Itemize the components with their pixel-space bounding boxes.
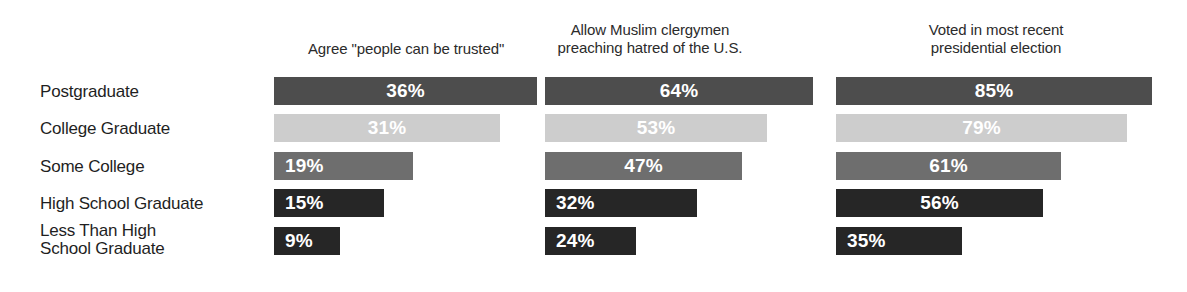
row-label-college-graduate: College Graduate <box>40 119 170 138</box>
bar-value: 85% <box>836 77 1152 105</box>
bar-value: 32% <box>545 189 697 217</box>
column-header-clergymen-line2: preaching hatred of the U.S. <box>520 39 780 57</box>
column-header-clergymen-line1: Allow Muslim clergymen <box>520 21 780 39</box>
bar-value: 64% <box>545 77 813 105</box>
bar-trust-some-college: 19% <box>274 152 413 180</box>
row-label-postgraduate: Postgraduate <box>40 82 139 101</box>
bar-value: 47% <box>545 152 742 180</box>
bar-voted-some-college: 61% <box>836 152 1061 180</box>
bar-clergymen-college-graduate: 53% <box>545 114 767 142</box>
column-header-clergymen: Allow Muslim clergymen preaching hatred … <box>520 21 780 57</box>
bar-voted-less-than-high-school: 35% <box>836 227 962 255</box>
bar-value: 36% <box>274 77 537 105</box>
column-header-voted-line2: presidential election <box>876 39 1116 57</box>
bar-value: 31% <box>274 114 500 142</box>
bar-value: 9% <box>274 227 340 255</box>
column-header-voted: Voted in most recent presidential electi… <box>876 21 1116 57</box>
row-label-some-college: Some College <box>40 157 144 176</box>
bar-value: 61% <box>836 152 1061 180</box>
column-header-trust-line1: Agree "people can be trusted" <box>274 40 538 58</box>
bar-value: 56% <box>836 189 1043 217</box>
bar-voted-college-graduate: 79% <box>836 114 1127 142</box>
bar-value: 15% <box>274 189 384 217</box>
row-label-high-school-graduate: High School Graduate <box>40 194 203 213</box>
row-label-less-than-high-school: Less Than High School Graduate <box>40 222 165 258</box>
bar-value: 19% <box>274 152 413 180</box>
bar-trust-postgraduate: 36% <box>274 77 537 105</box>
bar-value: 79% <box>836 114 1127 142</box>
column-header-voted-line1: Voted in most recent <box>876 21 1116 39</box>
bar-clergymen-less-than-high-school: 24% <box>545 227 636 255</box>
bar-voted-high-school-graduate: 56% <box>836 189 1043 217</box>
bar-voted-postgraduate: 85% <box>836 77 1152 105</box>
bar-value: 24% <box>545 227 636 255</box>
bar-trust-high-school-graduate: 15% <box>274 189 384 217</box>
bar-value: 53% <box>545 114 767 142</box>
bar-clergymen-postgraduate: 64% <box>545 77 813 105</box>
bar-trust-less-than-high-school: 9% <box>274 227 340 255</box>
bar-chart: Agree "people can be trusted" Allow Musl… <box>0 0 1187 292</box>
bar-clergymen-high-school-graduate: 32% <box>545 189 697 217</box>
bar-value: 35% <box>836 227 962 255</box>
bar-trust-college-graduate: 31% <box>274 114 500 142</box>
bar-clergymen-some-college: 47% <box>545 152 742 180</box>
column-header-trust: Agree "people can be trusted" <box>274 40 538 58</box>
